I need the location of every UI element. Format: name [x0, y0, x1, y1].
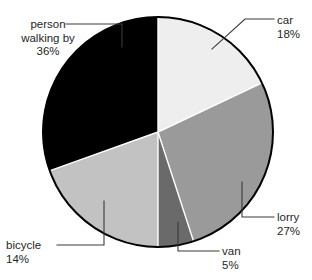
- slice-value-lorry: 27%: [277, 225, 300, 239]
- slice-value-van: 5%: [222, 259, 241, 273]
- slice-label-car: car 18%: [277, 14, 300, 41]
- slice-label-person-line2: walking by: [6, 32, 90, 46]
- slice-label-van: van 5%: [222, 245, 241, 272]
- slice-value-car: 18%: [277, 28, 300, 42]
- slice-label-lorry-name: lorry: [277, 211, 300, 225]
- pie-chart-figure: Pie chart to show traffic seen outside: [0, 0, 312, 280]
- slice-value-bicycle: 14%: [6, 253, 41, 267]
- slice-value-person: 36%: [6, 45, 90, 59]
- slice-label-person-walking-by: person walking by 36%: [6, 18, 90, 59]
- slice-label-lorry: lorry 27%: [277, 211, 300, 238]
- slice-label-person-line1: person: [6, 18, 90, 32]
- slice-label-bicycle-name: bicycle: [6, 239, 41, 253]
- slice-label-van-name: van: [222, 245, 241, 259]
- slice-label-car-name: car: [277, 14, 300, 28]
- slice-label-bicycle: bicycle 14%: [6, 239, 41, 266]
